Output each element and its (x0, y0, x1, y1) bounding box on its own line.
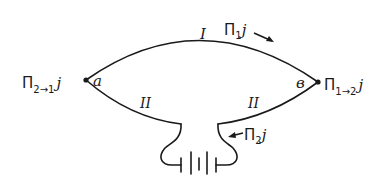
conductor-i-wire (86, 40, 318, 82)
junction-b-heat-label: Π1→2j (324, 76, 363, 97)
junction-b-dot (315, 79, 320, 84)
arrow-right-icon (254, 33, 274, 42)
conductor-ii-left-label: II (139, 95, 152, 111)
left-lead-wire (161, 124, 181, 165)
arrow-left-icon (228, 132, 243, 138)
lower-flux-annotation: Π2j (228, 126, 267, 146)
right-lead-wire (216, 124, 237, 165)
svg-text:Π2j: Π2j (244, 126, 267, 146)
node-a-label: a (93, 72, 102, 90)
node-b-label: в (296, 74, 305, 92)
upper-flux-annotation: Π1j (224, 21, 274, 42)
conductor-i-label: I (199, 25, 207, 43)
junction-a-dot (83, 77, 88, 82)
conductor-ii-right-label: II (247, 95, 260, 111)
thermocouple-circuit-diagram: a в I II II Π1j Π2j Π2→1j Π1→2j (0, 0, 385, 178)
svg-text:Π1j: Π1j (224, 21, 247, 41)
junction-a-heat-label: Π2→1j (22, 74, 61, 95)
